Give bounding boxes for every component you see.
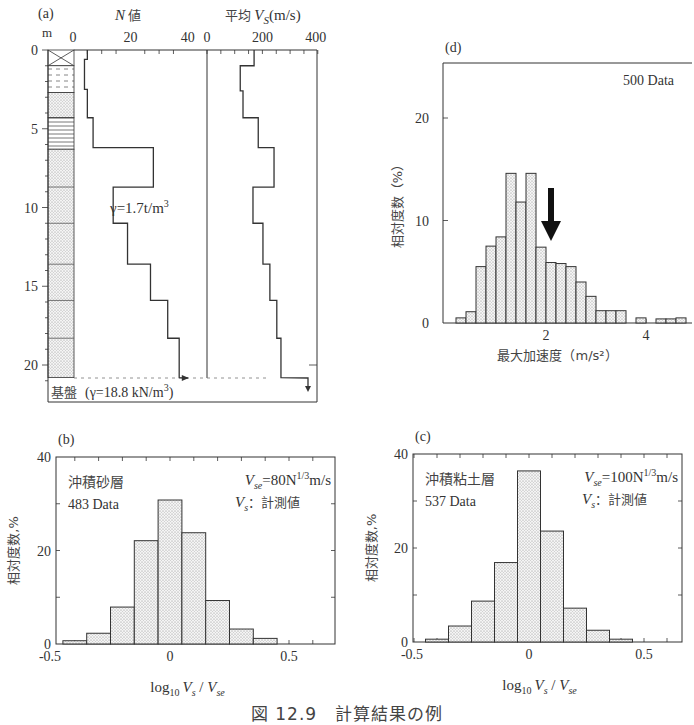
formula-vse: Vse=80N1/3m/s: [245, 470, 331, 491]
x-tick-label: 4: [643, 328, 650, 343]
histogram-bar: [206, 601, 230, 644]
histogram-bar: [526, 173, 536, 323]
soil-layer: [48, 149, 74, 377]
x-axis-title: 最大加速度（m/s²）: [497, 348, 617, 363]
histogram-bar: [476, 267, 486, 323]
y-tick-label: 20: [37, 544, 51, 559]
histogram-bar: [253, 638, 277, 644]
histogram-bar: [546, 263, 556, 323]
histogram-bar: [87, 633, 111, 644]
y-tick-label: 20: [394, 541, 408, 556]
depth-tick-label: 0: [31, 43, 38, 58]
panel-label: (c): [415, 429, 431, 445]
depth-tick-label: 20: [24, 358, 38, 373]
histogram-bar: [449, 626, 472, 642]
histogram-bar: [606, 311, 616, 323]
n-axis-tick-label: 0: [70, 30, 77, 45]
histogram-bar: [596, 311, 606, 323]
histogram-bar: [541, 531, 564, 642]
bedrock-label: 基盤(γ=18.8 kN/m3): [51, 382, 174, 401]
histogram-bar: [456, 318, 466, 323]
histogram-bar: [426, 639, 449, 642]
y-tick-label: 10: [415, 214, 429, 229]
vs-axis-tick-label: 200: [252, 30, 273, 45]
panel-label: (a): [38, 6, 54, 22]
histogram-bar: [134, 541, 158, 644]
y-axis-title: 相対度数,%: [6, 516, 21, 585]
n-axis-tick-label: 20: [123, 30, 137, 45]
x-tick-label: 0: [167, 649, 174, 664]
panel-label: (d): [445, 40, 462, 56]
histogram-bar: [556, 264, 566, 323]
x-tick-label: -0.5: [401, 647, 423, 662]
depth-tick-label: 5: [31, 122, 38, 137]
panel-b-sand-histogram: (b)02040-0.500.5沖積砂層483 DataVse=80N1/3m/…: [6, 432, 335, 698]
y-tick-label: 40: [37, 450, 51, 465]
y-tick-label: 0: [422, 316, 429, 331]
soil-layer: [48, 66, 74, 93]
histogram-bar: [576, 282, 586, 323]
data-count-label: 500 Data: [623, 73, 675, 88]
histogram-bar: [472, 601, 495, 642]
vs-axis-tick-label: 0: [204, 30, 211, 45]
depth-unit-label: m: [42, 25, 52, 40]
histogram-bar: [610, 639, 633, 642]
vs-axis-title: 平均VS(m/s): [225, 7, 300, 26]
figure-caption: 図 12.9 計算結果の例: [0, 700, 694, 725]
x-axis-title: log10Vs / Vse: [150, 679, 225, 698]
histogram-bar: [587, 630, 610, 642]
x-axis-title: log10Vs / Vse: [502, 677, 577, 696]
formula-vs: Vs：計測値: [582, 491, 647, 510]
vs-profile: [240, 50, 308, 389]
data-count-label: 537 Data: [425, 494, 477, 509]
soil-type-label: 沖積粘土層: [425, 471, 495, 487]
x-tick-label: 0.5: [635, 647, 653, 662]
histogram-bar: [495, 563, 518, 642]
histogram-bar: [506, 173, 516, 323]
y-axis-title: 相対度数,%: [364, 514, 379, 583]
histogram-bar: [656, 319, 666, 323]
histogram-bar: [63, 641, 87, 644]
x-tick-label: 2: [543, 328, 550, 343]
panel-a-soil-profile: (a)mN値平均VS(m/s)02040020040005101520γ=1.7…: [24, 6, 326, 402]
arrow-down-icon: [541, 188, 561, 241]
histogram-bar: [111, 607, 135, 644]
histogram-bar: [666, 319, 676, 323]
n-axis-tick-label: 40: [181, 30, 195, 45]
layer-density-label: γ=1.7t/m3: [109, 198, 169, 216]
histogram-bar: [518, 471, 541, 642]
histogram-bar: [636, 318, 646, 323]
histogram-bar: [486, 246, 496, 323]
panel-d-acceleration-histogram: (d)0102024500 Data相対度数（%）最大加速度（m/s²）: [390, 40, 692, 363]
histogram-bar: [566, 267, 576, 323]
y-tick-label: 40: [394, 447, 408, 462]
vs-axis-tick-label: 400: [305, 30, 326, 45]
histogram-bar: [564, 608, 587, 642]
histogram-bar: [158, 500, 182, 644]
x-tick-label: 0: [526, 647, 533, 662]
histogram-bar: [676, 318, 686, 323]
soil-layer: [48, 118, 74, 150]
formula-vs: Vs：計測値: [235, 494, 300, 513]
histogram-bar: [536, 247, 546, 323]
depth-tick-label: 15: [24, 279, 38, 294]
histogram-bar: [616, 311, 626, 323]
histogram-bar: [182, 533, 206, 644]
soil-layer: [48, 93, 74, 118]
panel-c-clay-histogram: (c)02040-0.500.5沖積粘土層537 DataVse=100N1/3…: [364, 429, 682, 696]
n-value-axis-title: N値: [114, 7, 141, 23]
data-count-label: 483 Data: [68, 497, 120, 512]
histogram-bar: [466, 312, 476, 323]
soil-type-label: 沖積砂層: [68, 474, 124, 490]
arrow-right-icon: [182, 375, 189, 381]
y-tick-label: 20: [415, 111, 429, 126]
histogram-bar: [516, 202, 526, 323]
arrow-down-icon: [305, 386, 311, 392]
histogram-bar: [230, 629, 254, 644]
panel-a-frame: [48, 50, 317, 402]
x-tick-label: 0.5: [280, 649, 298, 664]
formula-vse: Vse=100N1/3m/s: [584, 467, 678, 488]
histogram-bar: [586, 296, 596, 323]
histogram-bar: [496, 237, 506, 323]
